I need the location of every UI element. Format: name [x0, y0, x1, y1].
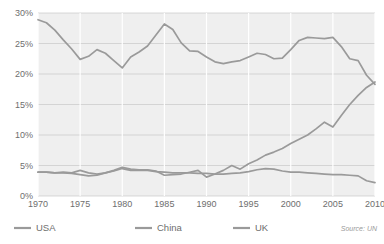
x-tick-label: 1975: [70, 199, 90, 209]
chart-legend: USAChinaUK: [14, 222, 269, 233]
source-note: Source: UN: [341, 225, 378, 232]
x-tick-label: 2005: [323, 199, 343, 209]
y-tick-label: 5%: [20, 161, 33, 171]
y-axis-tick-labels: 0%5%10%15%20%25%30%: [15, 8, 33, 201]
x-tick-label: 2010: [365, 199, 384, 209]
chart-container: 0%5%10%15%20%25%30% 19701975198019851990…: [0, 0, 384, 244]
legend-label-china[interactable]: China: [157, 222, 183, 233]
legend-label-usa[interactable]: USA: [36, 222, 56, 233]
y-tick-label: 25%: [15, 39, 33, 49]
legend-label-uk[interactable]: UK: [255, 222, 269, 233]
y-tick-label: 10%: [15, 130, 33, 140]
y-tick-label: 30%: [15, 8, 33, 18]
x-tick-label: 1970: [28, 199, 48, 209]
x-tick-label: 1985: [154, 199, 174, 209]
y-tick-label: 20%: [15, 69, 33, 79]
x-axis-tick-labels: 197019751980198519901995200020052010: [28, 199, 384, 209]
line-chart: 0%5%10%15%20%25%30% 19701975198019851990…: [0, 0, 384, 244]
x-tick-label: 1995: [239, 199, 259, 209]
x-tick-label: 1980: [112, 199, 132, 209]
x-tick-label: 2000: [281, 199, 301, 209]
y-tick-label: 15%: [15, 100, 33, 110]
x-tick-label: 1990: [196, 199, 216, 209]
